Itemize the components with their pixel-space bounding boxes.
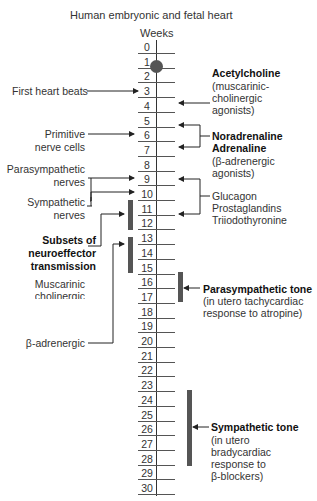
label-adrenaline: Adrenaline: [212, 142, 266, 155]
label-acetylcholine-2: (muscarinic-: [212, 80, 269, 93]
label-sympathetic-nerves-2: nerves: [53, 209, 85, 222]
label-acetylcholine-3: cholinergic: [212, 92, 262, 105]
label-subsets-3: transmission: [31, 260, 96, 273]
label-parasympathetic-tone: Parasympathetic tone: [203, 283, 312, 296]
label-triiodothyronine: Triiodothyronine: [212, 214, 287, 227]
label-subsets-2: neuroeffector: [28, 247, 96, 260]
label-sympathetic-tone-2: (in utero: [211, 434, 250, 447]
label-sympathetic-tone-4: response to: [211, 458, 266, 471]
label-beta-adrenergic: β-adrenergic: [26, 337, 85, 350]
label-sympathetic-tone-3: bradycardiac: [211, 446, 271, 459]
label-primitive-nerve-cells-1: Primitive: [45, 128, 85, 141]
label-primitive-nerve-cells-2: nerve cells: [35, 141, 85, 154]
label-acetylcholine-4: agonists): [212, 104, 255, 117]
label-acetylcholine: Acetylcholine: [212, 67, 280, 80]
label-muscarinic-2: cholinergic: [35, 290, 85, 299]
label-noradrenaline: Noradrenaline: [212, 130, 283, 143]
label-first-heart-beats: First heart beats: [12, 85, 88, 98]
label-muscarinic-1: Muscarinic: [35, 278, 85, 291]
label-parasympathetic-tone-3: response to atropine): [203, 307, 302, 320]
label-sympathetic-tone-5: β-blockers): [211, 470, 263, 483]
label-parasympathetic-tone-2: (in utero tachycardiac: [203, 295, 303, 308]
label-parasympathetic-nerves-1: Parasympathetic: [7, 163, 85, 176]
label-glucagon: Glucagon: [212, 190, 257, 203]
label-sympathetic-tone: Sympathetic tone: [211, 421, 299, 434]
label-beta-agonists-1: (β-adrenergic: [212, 155, 275, 168]
label-prostaglandins: Prostaglandins: [212, 202, 281, 215]
label-subsets-1: Subsets of: [42, 234, 96, 247]
label-sympathetic-nerves-1: Sympathetic: [27, 196, 85, 209]
label-parasympathetic-nerves-2: nerves: [53, 176, 85, 189]
label-beta-agonists-2: agonists): [212, 167, 255, 180]
